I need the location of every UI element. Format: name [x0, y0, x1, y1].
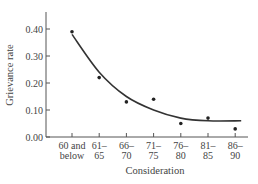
x-axis-title: Consideration: [126, 165, 186, 176]
y-tick-label: 0.00: [26, 132, 44, 143]
x-tick-label: 70: [121, 150, 131, 161]
y-tick-label: 0.40: [26, 24, 44, 35]
x-tick-label: 90: [230, 150, 240, 161]
data-point: [125, 100, 129, 104]
x-tick-label: 80: [176, 150, 186, 161]
x-tick-label: below: [60, 150, 85, 161]
x-tick-label: 85: [203, 150, 213, 161]
grievance-chart: 0.000.100.200.300.40 60 andbelow61–6566–…: [0, 0, 258, 184]
data-point: [179, 122, 183, 126]
y-tick-label: 0.10: [26, 105, 44, 116]
data-point: [206, 116, 210, 120]
data-points: [70, 30, 237, 131]
y-axis-title: Grievance rate: [4, 44, 15, 106]
x-tick-label: 65: [94, 150, 104, 161]
data-point: [70, 30, 74, 34]
axes: [46, 12, 248, 137]
data-point: [152, 97, 156, 101]
fitted-curve: [72, 34, 241, 121]
data-point: [233, 127, 237, 131]
y-tick-label: 0.30: [26, 51, 44, 62]
y-tick-label: 0.20: [26, 78, 44, 89]
data-point: [97, 76, 101, 80]
x-tick-label: 75: [149, 150, 159, 161]
